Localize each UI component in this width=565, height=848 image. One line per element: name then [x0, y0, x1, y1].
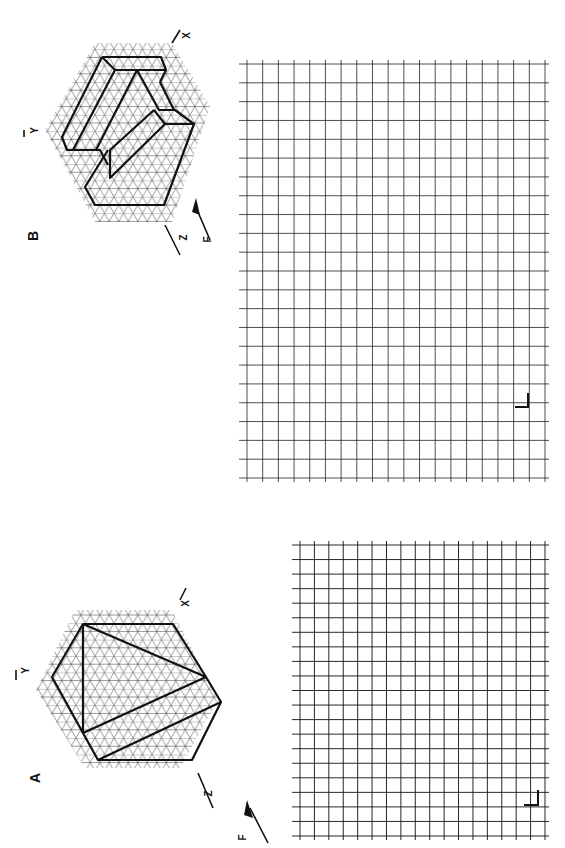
exercise-b-grid — [239, 60, 549, 482]
exercise-b-axis-z: Z — [178, 234, 189, 240]
exercise-a-axis-z: Z — [203, 790, 214, 796]
exercise-a-axis-x: X — [180, 600, 191, 607]
exercise-b-isometric — [24, 30, 220, 255]
view-arrow-head-icon — [192, 198, 200, 215]
exercise-b-corner-mark — [515, 393, 528, 407]
worksheet-canvas — [0, 0, 565, 848]
exercise-a-label: A — [27, 773, 43, 783]
exercise-a-isometric — [16, 588, 268, 843]
exercise-b-view-arrow-label: F — [202, 236, 213, 242]
exercise-a-axis-y: Y — [20, 667, 31, 674]
exercise-a-view-arrow-label: F — [237, 834, 248, 840]
view-arrow-head-icon — [244, 800, 253, 818]
exercise-b-label: B — [25, 231, 41, 241]
exercise-b-axis-y: Y — [29, 127, 40, 134]
exercise-b-axis-x: X — [181, 32, 192, 39]
exercise-a-grid — [292, 541, 549, 840]
